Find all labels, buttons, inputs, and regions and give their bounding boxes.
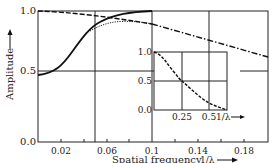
- inset-y-tick-0.0: 0.0: [138, 105, 153, 115]
- y-tick-1.0: 1.0: [20, 5, 36, 16]
- x-tick-0.18: 0.18: [234, 146, 254, 156]
- inset-x-tick-0.25: 0.25: [172, 112, 192, 122]
- x-tick-0.02: 0.02: [51, 146, 71, 156]
- inset-y-tick-0.5: 0.5: [138, 76, 153, 86]
- inset-plot: 1.0 0.5 0.0 0.25 0.5 1/λ: [138, 47, 245, 122]
- y-tick-0.5: 0.5: [20, 65, 36, 76]
- y-axis-title: Amplitude: [4, 48, 15, 101]
- y-axis-arrow-icon: [8, 29, 13, 48]
- inset-y-tick-1.0: 1.0: [138, 47, 153, 57]
- inset-x-unit: 1/λ: [216, 112, 231, 122]
- x-axis-title: Spatial frequency: [112, 154, 202, 163]
- x-axis-unit: 1/λ: [200, 155, 215, 163]
- inset-x-tick-0.5: 0.5: [202, 112, 217, 122]
- y-tick-0.0: 0.0: [20, 136, 36, 147]
- x-axis-arrow-icon: [217, 158, 238, 163]
- chart-canvas: 1.0 0.5 0.0 0.02 0.06 0.1 0.14 0.18 Spat…: [0, 0, 274, 163]
- inset-x-arrow-icon: [231, 115, 245, 119]
